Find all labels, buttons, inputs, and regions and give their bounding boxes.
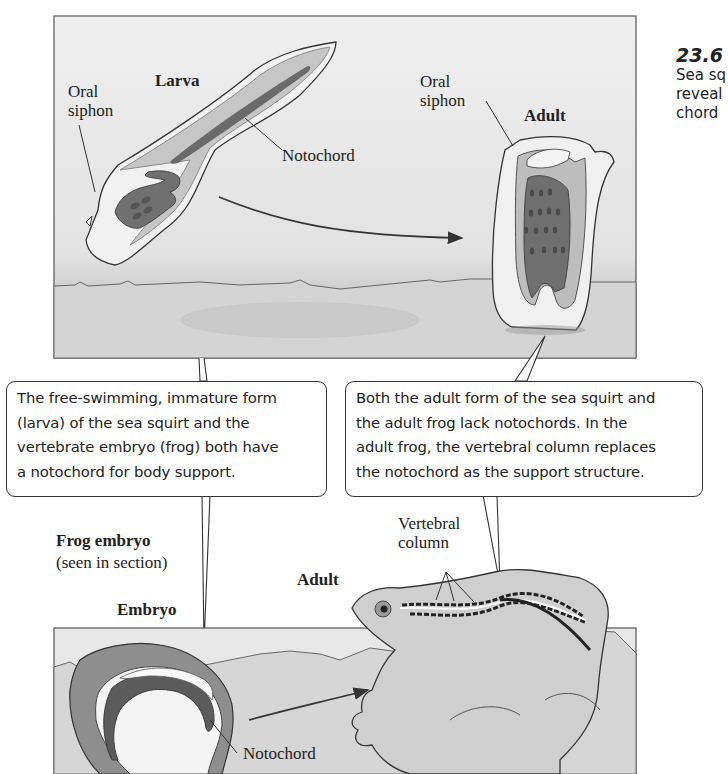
embryo-notochord-label: Notochord xyxy=(243,744,316,763)
figure-number: 23.6 xyxy=(676,44,726,66)
callout-larva-embryo: The free-swimming, immature form (larva)… xyxy=(6,381,327,497)
embryo-label: Embryo xyxy=(117,600,177,619)
larva-oral-siphon-label: Oral siphon xyxy=(68,82,113,120)
frog-embryo-subtitle: (seen in section) xyxy=(56,553,167,572)
larva-title: Larva xyxy=(155,71,199,90)
figure-caption: 23.6 Sea sq reveal chord xyxy=(676,44,726,123)
adult-frog-label: Adult xyxy=(297,570,339,589)
adult-sea-squirt-title: Adult xyxy=(524,106,566,125)
vertebral-column-label: Vertebral column xyxy=(398,514,460,552)
callout-adult-forms: Both the adult form of the sea squirt an… xyxy=(345,381,703,497)
adult-oral-siphon-label: Oral siphon xyxy=(420,72,465,110)
top-panel xyxy=(54,16,636,358)
larva-notochord-label: Notochord xyxy=(282,146,355,165)
adult-frog-illustration xyxy=(352,570,608,774)
frog-embryo-title: Frog embryo xyxy=(56,531,151,550)
